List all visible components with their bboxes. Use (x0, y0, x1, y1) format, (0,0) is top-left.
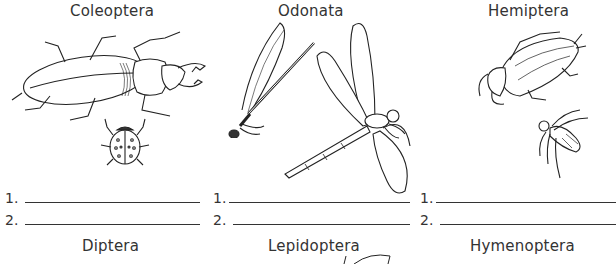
answer-underline[interactable] (233, 224, 410, 225)
answer-underline[interactable] (229, 202, 410, 203)
order-title-diptera: Diptera (82, 237, 139, 255)
order-title-hymenoptera: Hymenoptera (470, 237, 575, 255)
answer-number: 1. (420, 190, 433, 206)
answer-number: 2. (5, 212, 18, 228)
answer-underline[interactable] (436, 202, 616, 203)
answer-number: 2. (213, 212, 226, 228)
answer-underline[interactable] (440, 224, 616, 225)
order-title-lepidoptera: Lepidoptera (268, 237, 360, 255)
dragonfly-illustration (275, 16, 415, 196)
answer-number: 2. (420, 212, 433, 228)
answer-line-hemiptera-1[interactable]: 1. (420, 190, 616, 206)
answer-line-coleoptera-2[interactable]: 2. (5, 212, 200, 228)
answer-line-hemiptera-2[interactable]: 2. (420, 212, 616, 228)
giant-water-bug-illustration (470, 24, 590, 106)
answer-line-odonata-1[interactable]: 1. (213, 190, 410, 206)
answer-underline[interactable] (25, 224, 200, 225)
stag-beetle-illustration (10, 18, 210, 123)
ladybug-illustration (95, 115, 155, 170)
order-title-hemiptera: Hemiptera (488, 2, 569, 20)
answer-number: 1. (5, 190, 18, 206)
butterfly-wing-partial-illustration (340, 254, 400, 264)
answer-underline[interactable] (25, 202, 200, 203)
answer-line-odonata-2[interactable]: 2. (213, 212, 410, 228)
answer-number: 1. (213, 190, 226, 206)
answer-line-coleoptera-1[interactable]: 1. (5, 190, 200, 206)
backswimmer-illustration (532, 108, 592, 183)
